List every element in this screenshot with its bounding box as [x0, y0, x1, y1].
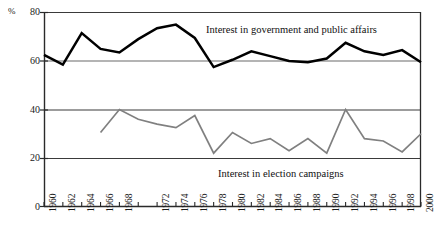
x-tick-label-1994: 1994 — [369, 194, 379, 212]
x-tick-label-1980: 1980 — [237, 194, 247, 212]
series-annotation-campaigns: Interest in election campaigns — [218, 168, 344, 179]
x-tick-label-1992: 1992 — [350, 194, 360, 212]
series-line-election-campaigns — [101, 110, 421, 154]
x-tick-marks — [44, 202, 421, 207]
x-tick-label-1996: 1996 — [388, 194, 398, 212]
x-tick-label-1990: 1990 — [331, 194, 341, 212]
x-tick-label-1960: 1960 — [48, 194, 58, 212]
series-annotation-government: Interest in government and public affair… — [206, 24, 377, 35]
x-tick-label-1988: 1988 — [312, 194, 322, 212]
x-tick-label-1978: 1978 — [218, 194, 228, 212]
chart-figure: % 80 60 40 20 0 Interest in government a… — [0, 0, 443, 243]
x-tick-label-1984: 1984 — [274, 194, 284, 212]
x-tick-label-1976: 1976 — [199, 194, 209, 212]
x-tick-label-1962: 1962 — [67, 194, 77, 212]
x-tick-label-1972: 1972 — [161, 194, 171, 212]
x-tick-label-1974: 1974 — [180, 194, 190, 212]
x-tick-label-1968: 1968 — [124, 194, 134, 212]
x-tick-label-1964: 1964 — [86, 194, 96, 212]
x-tick-label-1986: 1986 — [293, 194, 303, 212]
x-tick-label-1982: 1982 — [256, 194, 266, 212]
x-tick-label-1998: 1998 — [406, 194, 416, 212]
x-tick-label-1966: 1966 — [105, 194, 115, 212]
x-tick-label-2000: 2000 — [425, 194, 435, 212]
